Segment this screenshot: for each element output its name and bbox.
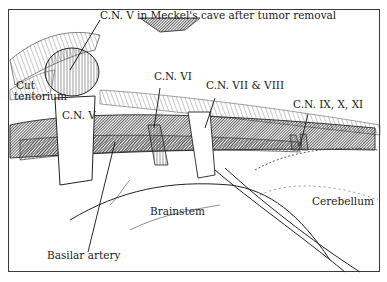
label-cn5-meckels-cave: C.N. V in Meckel's cave after tumor remo… — [100, 10, 336, 21]
anatomy-figure: C.N. V in Meckel's cave after tumor remo… — [0, 0, 387, 282]
label-cn7-8: C.N. VII & VIII — [206, 80, 284, 91]
label-cn9-10-11: C.N. IX, X, XI — [293, 99, 363, 110]
label-cn6: C.N. VI — [154, 71, 192, 82]
label-brainstem: Brainstem — [150, 206, 205, 217]
label-cn5: C.N. V — [62, 110, 96, 121]
label-tentorium: tentorium — [14, 91, 67, 102]
label-cerebellum: Cerebellum — [312, 196, 374, 207]
illustration-drawing — [0, 0, 387, 282]
label-basilar-artery: Basilar artery — [47, 250, 120, 261]
